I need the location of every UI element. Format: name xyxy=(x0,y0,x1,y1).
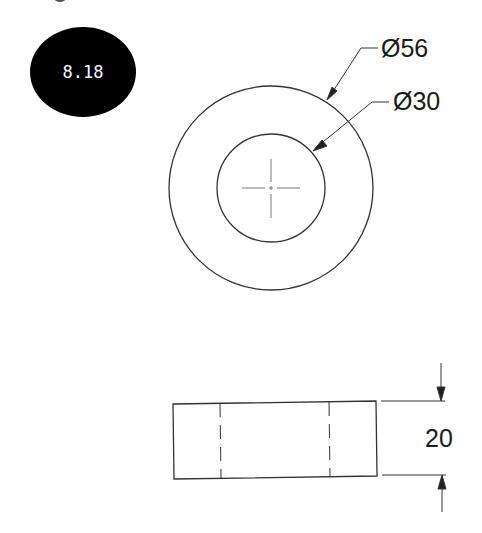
inner-diameter-label: Ø30 xyxy=(393,87,440,115)
side-view xyxy=(173,401,377,479)
arrowhead-icon xyxy=(313,140,327,151)
technical-drawing: 8.18 Ø56 Ø30 xyxy=(0,0,482,533)
leader-outer-diameter xyxy=(327,48,378,100)
leader-inner-diameter xyxy=(313,102,389,151)
figure-number-badge: 8.18 xyxy=(30,27,136,117)
hidden-line-right xyxy=(329,402,330,477)
side-rectangle xyxy=(173,401,377,479)
badge-label: 8.18 xyxy=(63,62,104,82)
thickness-label: 20 xyxy=(425,424,453,452)
outer-diameter-label: Ø56 xyxy=(381,34,428,62)
center-mark-icon xyxy=(242,159,300,218)
hidden-line-left xyxy=(220,403,221,478)
arrow-down-icon xyxy=(437,387,445,401)
arrow-up-icon xyxy=(438,475,446,489)
arrowhead-icon xyxy=(327,87,337,100)
top-view xyxy=(169,86,373,290)
stray-mark xyxy=(54,0,66,2)
